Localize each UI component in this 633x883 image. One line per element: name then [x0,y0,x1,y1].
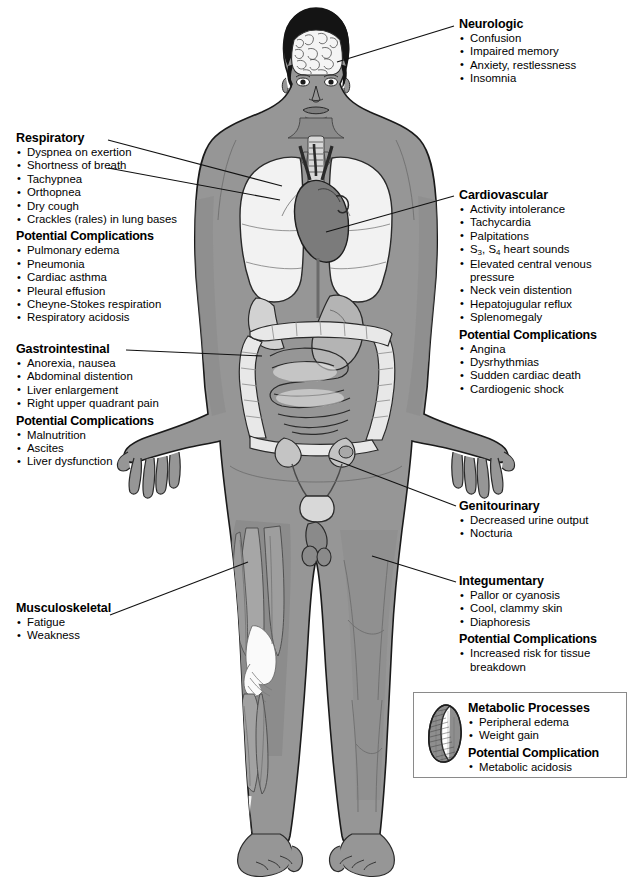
list-item: Pleural effusion [16,285,177,298]
list-item: Metabolic acidosis [468,761,599,774]
callout-cardiovascular: Cardiovascular Activity intolerance Tach… [459,188,597,396]
metabolic-complications-list: Metabolic acidosis [468,761,599,774]
list-item: Tachycardia [459,216,597,229]
list-item: Increased risk for tissue [459,647,597,660]
list-item: Splenomegaly [459,311,597,324]
integumentary-list: Pallor or cyanosis Cool, clammy skin Dia… [459,589,597,629]
list-item: Liver dysfunction [16,455,159,468]
list-item: Diaphoresis [459,616,597,629]
heart-sounds-sub-4: 4 [496,248,500,257]
respiratory-list: Dyspnea on exertion Shortness of breath … [16,146,177,226]
callout-integumentary: Integumentary Pallor or cyanosis Cool, c… [459,574,597,674]
metabolic-list: Peripheral edema Weight gain [468,716,599,743]
list-item: Angina [459,343,597,356]
feet [238,834,395,877]
integumentary-complications-list: Increased risk for tissue breakdown [459,647,597,674]
genitourinary-list: Decreased urine output Nocturia [459,514,588,541]
heart-sounds-text-suffix: heart sounds [500,243,569,255]
callout-metabolic-box: Metabolic Processes Peripheral edema Wei… [413,692,627,778]
leader-musculoskeletal [110,562,248,615]
brain-icon [292,30,343,75]
list-item: Weight gain [468,729,599,742]
list-item-heart-sounds: S3, S4 heart sounds [459,243,597,257]
list-item: Dry cough [16,200,177,213]
neurologic-heading: Neurologic [459,17,576,31]
list-item: Impaired memory [459,45,576,58]
kidney-icon [424,703,464,765]
list-item: Anxiety, restlessness [459,59,576,72]
diagram-canvas: Neurologic Confusion Impaired memory Anx… [0,0,633,883]
list-item: Cool, clammy skin [459,602,597,615]
musculoskeletal-heading: Musculoskeletal [16,601,111,615]
list-item: Neck vein distention [459,284,597,297]
integumentary-complications-heading: Potential Complications [459,632,597,646]
list-item: Sudden cardiac death [459,369,597,382]
heart-sounds-text-s: S [470,243,478,255]
cardiovascular-heading: Cardiovascular [459,188,597,202]
neurologic-list: Confusion Impaired memory Anxiety, restl… [459,32,576,86]
cardiovascular-complications-list: Angina Dysrhythmias Sudden cardiac death… [459,343,597,397]
list-item: Liver enlargement [16,384,159,397]
list-item: Fatigue [16,616,111,629]
gastrointestinal-complications-list: Malnutrition Ascites Liver dysfunction [16,429,159,469]
list-item: Nocturia [459,527,588,540]
cardiovascular-list: Activity intolerance Tachycardia Palpita… [459,203,597,325]
list-item: Pulmonary edema [16,244,177,257]
list-item: Insomnia [459,72,576,85]
list-item: Cardiogenic shock [459,383,597,396]
respiratory-complications-list: Pulmonary edema Pneumonia Cardiac asthma… [16,244,177,324]
list-item-continuation: breakdown [459,661,597,674]
list-item: Malnutrition [16,429,159,442]
list-item: Elevated central venous [459,258,597,271]
list-item: Pallor or cyanosis [459,589,597,602]
callout-musculoskeletal: Musculoskeletal Fatigue Weakness [16,601,111,643]
gastrointestinal-heading: Gastrointestinal [16,342,159,356]
genitourinary-heading: Genitourinary [459,499,588,513]
list-item: Ascites [16,442,159,455]
callout-respiratory: Respiratory Dyspnea on exertion Shortnes… [16,131,177,325]
heart-sounds-text-mid: , S [482,243,496,255]
integumentary-heading: Integumentary [459,574,597,588]
list-item: Crackles (rales) in lung bases [16,213,177,226]
respiratory-heading: Respiratory [16,131,177,145]
respiratory-complications-heading: Potential Complications [16,229,177,243]
list-item: Palpitations [459,230,597,243]
list-item: Peripheral edema [468,716,599,729]
list-item: Abdominal distention [16,370,159,383]
gastrointestinal-list: Anorexia, nausea Abdominal distention Li… [16,357,159,411]
musculoskeletal-list: Fatigue Weakness [16,616,111,643]
metabolic-heading: Metabolic Processes [468,701,599,715]
list-item: Cheyne-Stokes respiration [16,298,177,311]
list-item: Cardiac asthma [16,271,177,284]
list-item: Dyspnea on exertion [16,146,177,159]
list-item: Decreased urine output [459,514,588,527]
list-item: Confusion [459,32,576,45]
list-item: Orthopnea [16,186,177,199]
list-item: Hepatojugular reflux [459,298,597,311]
list-item: Tachypnea [16,173,177,186]
list-item: Shortness of breath [16,159,177,172]
list-item: Activity intolerance [459,203,597,216]
list-item: Anorexia, nausea [16,357,159,370]
callout-gastrointestinal: Gastrointestinal Anorexia, nausea Abdomi… [16,342,159,469]
list-item: Right upper quadrant pain [16,397,159,410]
list-item: Weakness [16,629,111,642]
cardiovascular-complications-heading: Potential Complications [459,328,597,342]
list-item: Pneumonia [16,258,177,271]
metabolic-text: Metabolic Processes Peripheral edema Wei… [468,701,599,774]
list-item-continuation: pressure [459,271,597,284]
list-item: Dysrhythmias [459,356,597,369]
heart-sounds-sub-3: 3 [478,248,482,257]
callout-neurologic: Neurologic Confusion Impaired memory Anx… [459,17,576,86]
list-item: Respiratory acidosis [16,311,177,324]
gastrointestinal-complications-heading: Potential Complications [16,414,159,428]
metabolic-complications-heading: Potential Complication [468,746,599,760]
callout-genitourinary: Genitourinary Decreased urine output Noc… [459,499,588,541]
leader-neurologic [337,26,454,62]
